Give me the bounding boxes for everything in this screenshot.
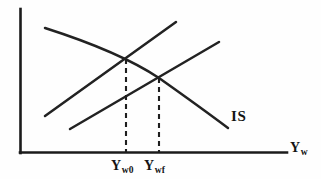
is-curve-diagram [0,0,321,179]
figure-container: IS Yw Yw0 Ywf [0,0,321,179]
x-tick-label-initial: Yw0 [111,157,133,173]
x-axis-label-base: Y [290,140,300,155]
upward-curve-2 [70,42,219,129]
x-tick-label-full-subscript: wf [155,165,165,175]
upward-curve-1 [45,22,176,116]
x-tick-label-full: Ywf [144,157,165,173]
is-curve [45,28,228,128]
x-tick-label-initial-subscript: w0 [122,165,134,175]
x-tick-label-initial-base: Y [111,158,121,173]
is-curve-label-text: IS [231,108,246,124]
x-axis-label-subscript: w [301,147,308,157]
is-curve-label: IS [231,108,246,124]
x-axis-label: Yw [290,139,307,155]
x-tick-label-full-base: Y [144,158,154,173]
